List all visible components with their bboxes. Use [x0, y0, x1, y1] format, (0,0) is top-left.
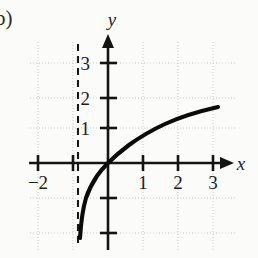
x-tick-label-3: 3 [208, 172, 218, 193]
y-tick-label-1: 1 [81, 118, 91, 139]
y-axis-label: y [106, 9, 117, 30]
x-tick-label-2: 2 [173, 172, 183, 193]
x-tick-label-1: 1 [138, 172, 148, 193]
x-axis-arrow-icon [220, 157, 234, 169]
graph-plot: 3 2 1 −2 1 2 3 x y [0, 0, 258, 258]
x-axis-label: x [236, 153, 246, 174]
grid-horizontal [30, 63, 236, 233]
y-tick-label-2: 2 [81, 88, 91, 109]
y-tick-label-3: 3 [81, 53, 91, 74]
y-axis-arrow-icon [102, 34, 114, 48]
figure-panel: b) [0, 0, 258, 258]
x-tick-label--2: −2 [28, 172, 48, 193]
function-curve [80, 107, 218, 238]
